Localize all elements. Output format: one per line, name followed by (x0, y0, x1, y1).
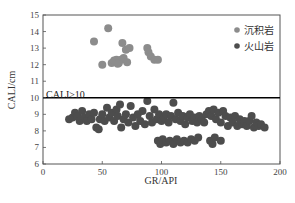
volcanic-point (122, 110, 130, 118)
volcanic-point (261, 124, 269, 132)
x-tick-label: 150 (214, 167, 228, 177)
legend-marker-sedimentary (234, 27, 240, 33)
volcanic-point (116, 100, 124, 108)
y-tick-label: 12 (30, 60, 39, 70)
volcanic-point (90, 109, 98, 117)
sedimentary-point (90, 38, 98, 46)
x-axis-title: GR/API (145, 175, 178, 186)
legend-label-volcanic: 火山岩 (244, 40, 274, 52)
sedimentary-point (114, 60, 122, 68)
y-tick-label: 10 (30, 93, 40, 103)
volcanic-point (248, 112, 256, 120)
y-tick-label: 7 (35, 142, 40, 152)
y-tick-label: 15 (30, 10, 40, 20)
y-tick-label: 9 (35, 109, 40, 119)
x-tick-label: 0 (41, 167, 46, 177)
sedimentary-point (126, 44, 134, 52)
volcanic-point (95, 125, 103, 133)
sedimentary-point (104, 24, 112, 32)
volcanic-point (117, 124, 125, 132)
volcanic-point (217, 137, 225, 145)
y-tick-label: 6 (35, 159, 40, 169)
volcanic-point (141, 120, 149, 128)
sedimentary-point (154, 56, 162, 64)
x-tick-label: 200 (273, 167, 287, 177)
y-tick-label: 14 (30, 27, 40, 37)
y-tick-label: 8 (35, 126, 40, 136)
volcanic-point (127, 102, 135, 110)
volcanic-point (217, 119, 225, 127)
volcanic-point (200, 119, 208, 127)
legend-marker-volcanic (234, 43, 240, 49)
y-tick-label: 11 (30, 76, 39, 86)
volcanic-point (194, 134, 202, 142)
y-tick-label: 13 (30, 43, 40, 53)
y-axis-title: CALI/cm (6, 71, 17, 110)
volcanic-point (139, 107, 147, 115)
sedimentary-point (123, 58, 131, 66)
volcanic-point (169, 99, 177, 107)
legend-label-sedimentary: 沉积岩 (244, 24, 274, 36)
x-tick-label: 50 (98, 167, 108, 177)
sedimentary-point (98, 61, 106, 69)
scatter-chart: 6789101112131415 050100150200 CALI≥10 GR… (0, 0, 295, 203)
threshold-annotation: CALI≥10 (46, 89, 85, 100)
